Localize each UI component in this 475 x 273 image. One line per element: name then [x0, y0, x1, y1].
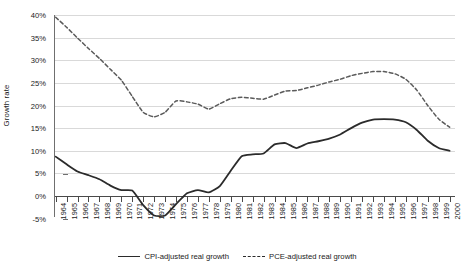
- x-axis-tick-label: 1976: [190, 203, 199, 219]
- x-axis-tick-label: 1985: [289, 203, 298, 219]
- x-axis-tick-label: 1969: [114, 203, 123, 219]
- y-axis-tick-label: 25%: [31, 78, 46, 87]
- x-axis-tick-label: 1987: [311, 203, 320, 219]
- plot-area: [55, 15, 455, 216]
- x-axis-tick-label: 1978: [212, 203, 221, 219]
- y-axis-tick-label: -5%: [32, 214, 46, 223]
- series-layer: [55, 15, 455, 216]
- x-axis-tick-label: 1966: [81, 203, 90, 219]
- y-axis-tick-label: 30%: [31, 56, 46, 65]
- y-axis-tick-label: 20%: [31, 101, 46, 110]
- x-axis-tick-label: 1983: [267, 203, 276, 219]
- x-axis-tick-label: 1997: [420, 203, 429, 219]
- x-axis-tick-label: 2000: [453, 203, 462, 219]
- x-axis-tick-label: 1968: [103, 203, 112, 219]
- x-axis-tick-label: 1999: [442, 203, 451, 219]
- x-axis-tick-label: 1965: [70, 203, 79, 219]
- x-axis-tick-label: 1971: [135, 203, 144, 219]
- line-chart: Growth rate 40%35%30%25%20%15%10%5%0%-5%…: [0, 0, 475, 273]
- x-axis-tick-label: 1994: [387, 203, 396, 219]
- x-axis-tick-labels: 1964196519661967196819691970197119721973…: [55, 203, 455, 243]
- x-axis-tick-label: 1975: [179, 203, 188, 219]
- x-axis-tick-label: 1988: [322, 203, 331, 219]
- y-axis-tick-labels: 40%35%30%25%20%15%10%5%0%-5%: [14, 0, 50, 273]
- x-axis-tick-label: 1981: [245, 203, 254, 219]
- solid-line-icon: [118, 256, 140, 257]
- x-axis-tick-label: 1996: [409, 203, 418, 219]
- y-axis-tick-label: 35%: [31, 33, 46, 42]
- y-axis-title-label: Growth rate: [3, 84, 12, 126]
- x-axis-tick-label: 1964: [59, 203, 68, 219]
- y-axis-tick-label: 15%: [31, 124, 46, 133]
- y-axis-tick-label: 40%: [31, 11, 46, 20]
- x-axis-tick-label: 1982: [256, 203, 265, 219]
- x-axis-tick-label: 1990: [343, 203, 352, 219]
- x-axis-tick-label: 1986: [300, 203, 309, 219]
- series-line-cpi: [56, 119, 450, 216]
- dashed-line-icon: [243, 256, 265, 257]
- x-axis-tick-label: 1979: [223, 203, 232, 219]
- y-axis-tick-label: 10%: [31, 146, 46, 155]
- series-line-pce: [56, 17, 450, 127]
- x-axis-tick-label: 1998: [431, 203, 440, 219]
- x-axis-tick-label: 1995: [398, 203, 407, 219]
- x-axis-tick-label: 1974: [168, 203, 177, 219]
- legend-label-cpi: CPI-adjusted real growth: [144, 252, 229, 261]
- chart-legend: CPI-adjusted real growth PCE-adjusted re…: [0, 252, 475, 261]
- legend-label-pce: PCE-adjusted real growth: [269, 252, 357, 261]
- x-axis-tick-label: 1989: [332, 203, 341, 219]
- x-axis-tick-label: 1980: [234, 203, 243, 219]
- x-axis-tick-label: 1984: [278, 203, 287, 219]
- x-axis-tick-label: 1991: [354, 203, 363, 219]
- x-axis-tick-label: 1992: [365, 203, 374, 219]
- legend-item-cpi: CPI-adjusted real growth: [118, 252, 229, 261]
- x-axis-tick-label: 1972: [146, 203, 155, 219]
- legend-item-pce: PCE-adjusted real growth: [243, 252, 357, 261]
- x-axis-tick-label: 1970: [125, 203, 134, 219]
- x-axis-tick-label: 1993: [376, 203, 385, 219]
- x-axis-tick-label: 1973: [157, 203, 166, 219]
- x-axis-tick-label: 1977: [201, 203, 210, 219]
- y-axis-tick-label: 0%: [35, 192, 46, 201]
- y-axis-spine: [54, 15, 55, 217]
- x-axis-tick-label: 1967: [92, 203, 101, 219]
- y-axis-title: Growth rate: [0, 0, 14, 210]
- y-axis-tick-label: 5%: [35, 169, 46, 178]
